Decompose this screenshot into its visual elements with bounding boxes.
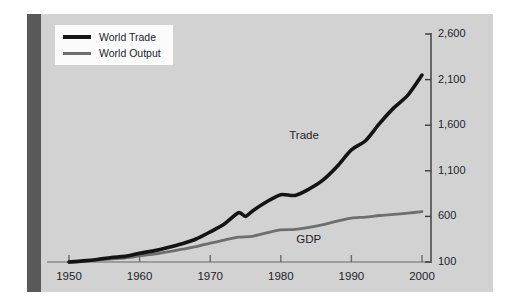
legend-swatch-world-trade: [63, 35, 91, 39]
chart-legend: World Trade World Output: [55, 25, 173, 65]
legend-label-world-trade: World Trade: [99, 31, 156, 44]
y-axis-tick-2100: 2,100: [438, 73, 466, 85]
x-axis-tick-1950: 1950: [47, 270, 91, 282]
x-axis-tick-1980: 1980: [259, 270, 303, 282]
y-axis-tick-1600: 1,600: [438, 118, 466, 130]
x-axis-tick-1990: 1990: [329, 270, 373, 282]
annotation-gdp: GDP: [296, 233, 321, 245]
legend-swatch-world-output: [63, 52, 91, 55]
y-axis-tick-2600: 2,600: [438, 27, 466, 39]
legend-label-world-output: World Output: [99, 47, 161, 60]
legend-item-world-trade: World Trade: [63, 29, 173, 45]
y-axis-tick-600: 600: [438, 209, 456, 221]
chart-figure: World Trade World Output 1006001,1001,60…: [0, 0, 511, 308]
legend-item-world-output: World Output: [63, 45, 173, 61]
y-axis-tick-100: 100: [438, 255, 456, 267]
x-axis-tick-2000: 2000: [400, 270, 444, 282]
x-axis-tick-1970: 1970: [188, 270, 232, 282]
annotation-trade: Trade: [289, 129, 319, 141]
y-axis-tick-1100: 1,100: [438, 164, 466, 176]
x-axis-tick-1960: 1960: [118, 270, 162, 282]
